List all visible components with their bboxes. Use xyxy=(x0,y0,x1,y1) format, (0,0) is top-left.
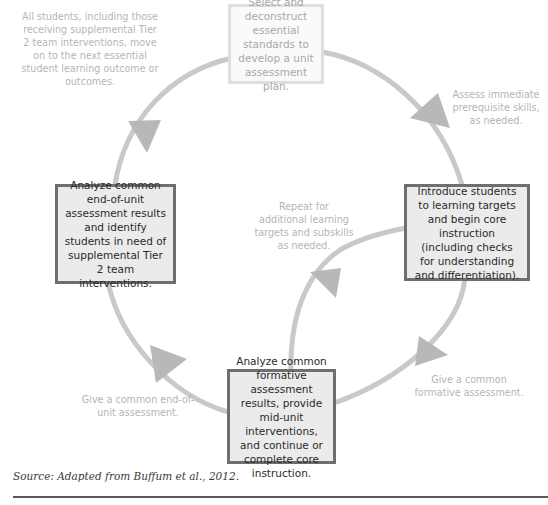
step-box-analyze-end-of-unit: Analyze common end-of-unit assessment re… xyxy=(55,184,176,284)
step-text-analyze-end-of-unit: Analyze common end-of-unit assessment re… xyxy=(64,178,167,290)
label-repeat: Repeat for additional learning targets a… xyxy=(254,200,354,252)
step-box-analyze-formative: Analyze common formative assessment resu… xyxy=(227,369,336,464)
arrowhead-repeat-icon xyxy=(310,268,341,298)
label-move-on: All students, including those receiving … xyxy=(20,10,160,88)
step-box-introduce-targets: Introduce students to learning targets a… xyxy=(404,184,530,281)
arrowhead-top-right-icon xyxy=(410,93,450,128)
step-box-select-standards: Select and deconstruct essential standar… xyxy=(228,4,324,84)
source-caption: Source: Adapted from Buffum et al., 2012… xyxy=(13,470,239,482)
step-text-analyze-formative: Analyze common formative assessment resu… xyxy=(236,354,327,480)
label-formative-assessment: Give a common formative assessment. xyxy=(414,373,524,399)
label-end-of-unit-assessment: Give a common end-of-unit assessment. xyxy=(80,393,196,419)
bottom-divider xyxy=(13,496,548,498)
step-text-introduce-targets: Introduce students to learning targets a… xyxy=(413,184,521,282)
label-assess-prerequisite: Assess immediate prerequisite skills, as… xyxy=(450,88,542,127)
step-text-select-standards: Select and deconstruct essential standar… xyxy=(237,0,315,93)
assessment-cycle-diagram: Select and deconstruct essential standar… xyxy=(0,0,548,505)
